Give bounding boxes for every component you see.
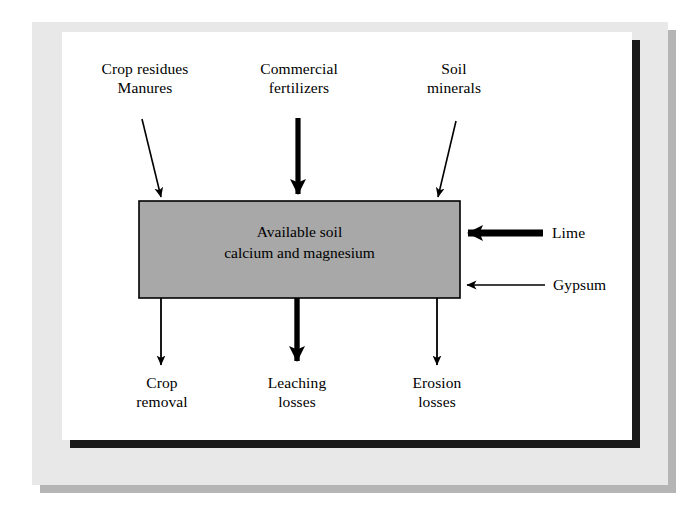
center-box-label: Available soil calcium and magnesium <box>139 222 460 264</box>
label-leaching-losses: Leaching losses <box>241 374 353 412</box>
figure-stage: Available soil calcium and magnesium Cro… <box>0 0 699 511</box>
label-soil-minerals: Soil minerals <box>396 60 512 98</box>
label-commercial-fertilizers: Commercial fertilizers <box>238 60 360 98</box>
arrow-crop-residues-manures <box>142 119 161 197</box>
arrow-soil-minerals <box>438 121 456 197</box>
label-erosion-losses: Erosion losses <box>381 374 493 412</box>
label-crop-removal: Crop removal <box>106 374 218 412</box>
label-crop-residues-manures: Crop residues Manures <box>74 60 216 98</box>
label-lime: Lime <box>552 224 642 243</box>
label-gypsum: Gypsum <box>553 276 653 295</box>
